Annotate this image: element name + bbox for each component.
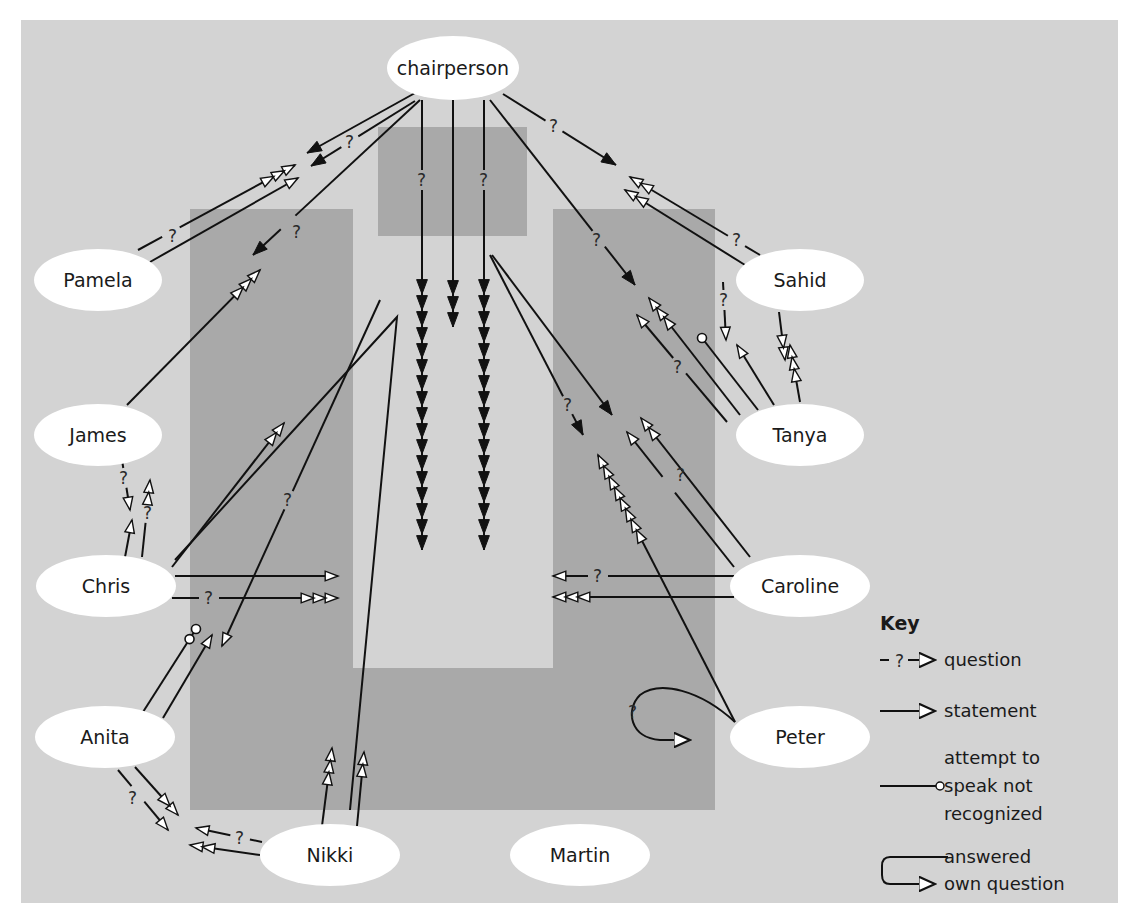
participant-label: Caroline bbox=[761, 575, 839, 597]
legend-label: answered bbox=[944, 846, 1031, 867]
svg-text:?: ? bbox=[128, 788, 137, 808]
participant-label: Chris bbox=[82, 575, 130, 597]
legend-label: attempt to bbox=[944, 747, 1040, 768]
legend-label: statement bbox=[944, 700, 1037, 721]
svg-text:?: ? bbox=[732, 230, 741, 250]
participant-chris: Chris bbox=[36, 555, 176, 617]
svg-text:?: ? bbox=[283, 490, 292, 510]
svg-text:?: ? bbox=[479, 170, 488, 190]
svg-text:?: ? bbox=[549, 116, 558, 136]
attempt-circle-icon bbox=[698, 334, 707, 343]
participant-chairperson: chairperson bbox=[387, 36, 519, 100]
participant-label: James bbox=[68, 424, 126, 446]
participant-label: Nikki bbox=[307, 844, 354, 866]
legend-label: question bbox=[944, 649, 1022, 670]
svg-text:?: ? bbox=[673, 357, 682, 377]
svg-text:?: ? bbox=[895, 651, 904, 671]
svg-text:?: ? bbox=[204, 588, 213, 608]
participant-caroline: Caroline bbox=[730, 555, 870, 617]
svg-text:?: ? bbox=[563, 395, 572, 415]
participant-label: Martin bbox=[550, 844, 611, 866]
legend-title: Key bbox=[880, 612, 920, 634]
participant-label: Anita bbox=[80, 726, 129, 748]
table-bottom bbox=[190, 668, 715, 810]
svg-text:?: ? bbox=[143, 503, 152, 523]
participant-anita: Anita bbox=[35, 706, 175, 768]
participant-label: Sahid bbox=[773, 269, 826, 291]
svg-text:?: ? bbox=[593, 566, 602, 586]
participant-tanya: Tanya bbox=[736, 404, 864, 466]
svg-text:?: ? bbox=[592, 230, 601, 250]
svg-text:?: ? bbox=[168, 226, 177, 246]
svg-text:?: ? bbox=[345, 132, 354, 152]
legend-label: own question bbox=[944, 873, 1065, 894]
participant-pamela: Pamela bbox=[34, 249, 162, 311]
svg-text:?: ? bbox=[676, 465, 685, 485]
participant-label: chairperson bbox=[397, 57, 509, 79]
legend-item-question: ? question bbox=[880, 649, 1022, 671]
participant-label: Tanya bbox=[771, 424, 827, 446]
participant-nikki: Nikki bbox=[260, 824, 400, 886]
participant-sahid: Sahid bbox=[736, 249, 864, 311]
svg-text:?: ? bbox=[235, 828, 244, 848]
legend-label: speak not bbox=[944, 775, 1033, 796]
participant-label: Pamela bbox=[63, 269, 132, 291]
svg-text:?: ? bbox=[119, 468, 128, 488]
participant-label: Peter bbox=[775, 726, 825, 748]
meeting-interaction-diagram: ???????????????????? chairpersonPamelaJa… bbox=[0, 0, 1138, 918]
participant-peter: Peter bbox=[730, 706, 870, 768]
attempt-circle-icon bbox=[192, 625, 201, 634]
participant-james: James bbox=[34, 404, 162, 466]
svg-text:?: ? bbox=[292, 222, 301, 242]
svg-text:?: ? bbox=[417, 170, 426, 190]
legend-label: recognized bbox=[944, 803, 1043, 824]
svg-text:?: ? bbox=[628, 702, 637, 722]
participant-martin: Martin bbox=[510, 824, 650, 886]
svg-text:?: ? bbox=[719, 290, 728, 310]
attempt-circle-icon bbox=[185, 635, 194, 644]
